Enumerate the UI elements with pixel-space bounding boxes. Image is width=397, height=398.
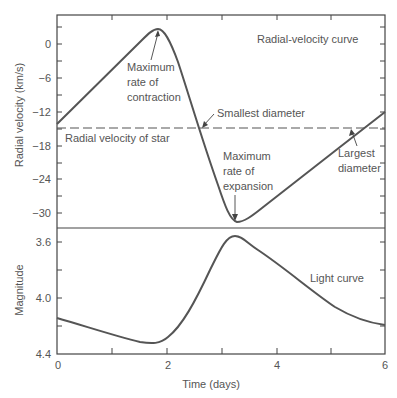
svg-text:Maximum: Maximum: [127, 61, 175, 73]
svg-text:contraction: contraction: [127, 91, 181, 103]
tick-label: 4: [274, 359, 280, 371]
radial-velocity-curve: [57, 29, 385, 222]
rv-curve-label: Radial-velocity curve: [257, 33, 358, 45]
svg-text:diameter: diameter: [338, 162, 381, 174]
svg-text:expansion: expansion: [223, 180, 273, 192]
light-curve: [57, 236, 385, 343]
max-expansion-annotation: Maximum rate of expansion: [223, 150, 273, 192]
mag-tick-labels: 3.6 4.0 4.4: [36, 236, 51, 360]
svg-text:Largest: Largest: [338, 147, 375, 159]
tick-label: 4.4: [36, 348, 51, 360]
svg-text:rate of: rate of: [127, 76, 159, 88]
x-ticks: [112, 348, 331, 354]
pulsating-star-chart: 0 −6 −12 −18 −24 −30 3.6 4.0 4.4 0 2 4 6…: [0, 0, 397, 398]
largest-diameter-annotation: Largest diameter: [338, 147, 381, 174]
tick-label: 0: [45, 38, 51, 50]
x-axis-label: Time (days): [182, 378, 240, 390]
rv-ticks-right: [380, 27, 385, 213]
tick-label: −12: [32, 106, 51, 118]
max-contraction-annotation: Maximum rate of contraction: [127, 61, 181, 103]
light-curve-label: Light curve: [310, 272, 364, 284]
plot-frame: [57, 15, 385, 354]
tick-label: 2: [165, 359, 171, 371]
tick-label: −18: [32, 140, 51, 152]
rv-y-axis-label: Radial velocity (km/s): [13, 63, 25, 168]
smallest-diameter-label: Smallest diameter: [217, 107, 305, 119]
svg-text:Maximum: Maximum: [223, 150, 271, 162]
tick-label: −6: [38, 72, 51, 84]
star-velocity-label: Radial velocity of star: [65, 132, 170, 144]
tick-label: 6: [382, 359, 388, 371]
contraction-arrow: [151, 33, 158, 60]
tick-label: 4.0: [36, 292, 51, 304]
mag-ticks: [57, 242, 385, 326]
tick-label: −24: [32, 173, 51, 185]
arrow-head-icon: [155, 30, 160, 37]
tick-label: 3.6: [36, 236, 51, 248]
x-tick-labels: 0 2 4 6: [55, 359, 388, 371]
tick-label: −30: [32, 207, 51, 219]
top-ticks: [112, 15, 331, 20]
svg-text:rate of: rate of: [223, 165, 255, 177]
tick-label: 0: [55, 359, 61, 371]
rv-tick-labels: 0 −6 −12 −18 −24 −30: [32, 38, 51, 219]
mag-y-axis-label: Magnitude: [13, 264, 25, 315]
